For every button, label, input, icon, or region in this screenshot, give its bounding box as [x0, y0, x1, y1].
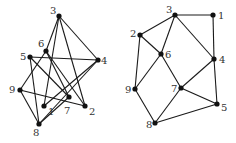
node-7 — [66, 94, 71, 99]
node-3 — [56, 13, 61, 18]
left-graph: 123456789 — [9, 5, 107, 138]
right-graph-edges — [135, 15, 217, 123]
node-label-9: 9 — [125, 84, 131, 95]
node-2 — [82, 103, 87, 108]
node-3 — [172, 12, 177, 17]
node-label-3: 3 — [50, 5, 56, 16]
node-4 — [95, 57, 100, 62]
right-graph: 123456789 — [125, 4, 227, 130]
node-label-8: 8 — [146, 119, 152, 130]
right-graph-nodes — [132, 12, 219, 125]
node-1 — [41, 103, 46, 108]
node-8 — [152, 120, 157, 125]
node-label-5: 5 — [20, 51, 26, 62]
node-6 — [43, 48, 48, 53]
edge-3-2 — [140, 15, 175, 35]
edge-5-8 — [30, 57, 39, 124]
edge-4-1 — [44, 60, 98, 106]
node-label-1: 1 — [48, 106, 54, 117]
node-label-9: 9 — [9, 84, 15, 95]
right-graph-labels: 123456789 — [125, 4, 227, 130]
edge-9-8 — [20, 90, 39, 124]
node-6 — [158, 51, 163, 56]
edge-2-6 — [140, 35, 161, 54]
node-label-1: 1 — [218, 10, 224, 21]
node-label-7: 7 — [171, 83, 177, 94]
node-label-2: 2 — [130, 28, 136, 39]
node-2 — [137, 32, 142, 37]
edge-2-9 — [135, 35, 140, 89]
edge-3-4 — [175, 15, 214, 59]
node-label-3: 3 — [166, 4, 172, 15]
graph-figure: 123456789 123456789 — [0, 0, 236, 143]
node-label-5: 5 — [221, 102, 227, 113]
edge-1-4 — [213, 15, 214, 59]
node-label-4: 4 — [101, 55, 107, 66]
edge-7-5 — [181, 88, 217, 104]
edge-4-7 — [181, 59, 214, 88]
node-label-7: 7 — [64, 105, 70, 116]
node-8 — [36, 121, 41, 126]
edge-3-2 — [59, 16, 85, 106]
node-label-8: 8 — [33, 127, 39, 138]
node-9 — [132, 86, 137, 91]
edge-4-5 — [214, 59, 217, 104]
edge-3-6 — [46, 16, 59, 51]
node-label-4: 4 — [219, 54, 225, 65]
node-1 — [210, 12, 215, 17]
left-graph-labels: 123456789 — [9, 5, 107, 138]
node-label-2: 2 — [89, 106, 95, 117]
node-4 — [211, 56, 216, 61]
edge-5-7 — [30, 57, 69, 97]
edge-6-9 — [135, 54, 161, 89]
node-5 — [214, 101, 219, 106]
node-label-6: 6 — [165, 49, 171, 60]
node-9 — [17, 87, 22, 92]
edge-8-5 — [155, 104, 217, 123]
node-label-6: 6 — [38, 38, 44, 49]
node-7 — [178, 85, 183, 90]
node-5 — [27, 54, 32, 59]
edge-9-8 — [135, 89, 155, 123]
